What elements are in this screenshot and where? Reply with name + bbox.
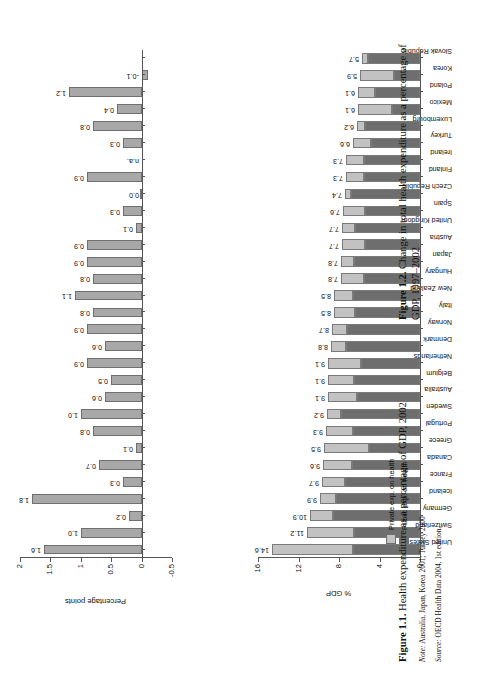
bar-value-label: 0.8 — [80, 275, 90, 283]
x-axis-tick — [142, 362, 145, 363]
category-label: Korea — [433, 64, 452, 72]
figure-1-2-plot-area: 1.61.00.21.80.30.70.10.81.00.60.50.90.60… — [20, 50, 172, 558]
figure-1-2-bar — [69, 87, 142, 97]
bar-value-label: 6.2 — [344, 123, 354, 131]
x-axis-tick — [142, 311, 145, 312]
x-axis-tick — [142, 159, 145, 160]
x-axis-tick — [142, 464, 145, 465]
bar-segment-private — [332, 324, 347, 334]
bar-value-label: n.a. — [126, 157, 138, 165]
bar-segment-private — [360, 70, 393, 80]
bar-segment-private — [346, 172, 364, 182]
bar-value-label: 8.8 — [318, 343, 328, 351]
y-axis-tick-label: 1 — [76, 564, 85, 592]
bar-value-label: 0.8 — [80, 309, 90, 317]
category-label: Finland — [429, 165, 452, 173]
figure-1-2-caption-label: Figure 1.2. — [397, 272, 408, 320]
figure-1-2-bar — [93, 426, 142, 436]
bar-segment-private — [323, 460, 352, 470]
x-axis-tick — [142, 379, 145, 380]
x-axis-tick — [142, 498, 145, 499]
figure-1-2-bar — [87, 257, 142, 267]
bar-segment-private — [328, 375, 354, 385]
bar-segment-private — [328, 392, 357, 402]
bar-value-label: 0.1 — [122, 445, 132, 453]
bar-value-label: 9.1 — [315, 377, 325, 385]
y-axis-tick — [142, 558, 143, 562]
bar-segment-public — [369, 443, 420, 453]
bar-segment-private — [345, 189, 351, 199]
x-axis-tick — [142, 261, 145, 262]
y-axis-tick-label: 4 — [375, 564, 384, 586]
x-axis-tick — [142, 142, 145, 143]
bar-value-label: 7.7 — [329, 225, 339, 233]
y-axis-tick-label: 0 — [137, 564, 146, 592]
figure-1-2-bar — [81, 409, 142, 419]
bar-segment-private — [353, 138, 371, 148]
bar-value-label: 0.5 — [98, 377, 108, 385]
x-axis-tick — [142, 91, 145, 92]
bar-value-label: 0.9 — [74, 326, 84, 334]
bar-segment-private — [328, 358, 361, 368]
figure-1-2-bar — [129, 511, 141, 521]
x-axis-tick — [142, 244, 145, 245]
category-label: Ireland — [430, 148, 452, 156]
bar-value-label: 7.7 — [329, 242, 339, 250]
bar-value-label: 9.2 — [314, 411, 324, 419]
bar-segment-private — [346, 155, 364, 165]
bar-value-label: 10.9 — [292, 513, 306, 521]
bar-value-label: 0.7 — [86, 462, 96, 470]
figure-1-2-caption: Figure 1.2. Change in total health expen… — [396, 30, 422, 320]
x-axis-tick — [142, 532, 145, 533]
x-axis-tick — [142, 108, 145, 109]
figure-1-1-bar — [258, 324, 420, 334]
y-axis-tick-label: 2 — [15, 564, 24, 592]
bar-value-label: 11.2 — [290, 529, 304, 537]
bar-value-label: 8.7 — [319, 326, 329, 334]
x-axis-tick — [142, 345, 145, 346]
y-axis-tick-label: 1.5 — [45, 564, 54, 592]
y-axis-tick — [172, 558, 173, 562]
bar-segment-private — [334, 290, 353, 300]
category-label: Japan — [433, 250, 452, 258]
x-axis-tick — [142, 57, 145, 58]
x-axis-tick — [420, 328, 423, 329]
legend-item-private: Private exp. on health — [386, 459, 396, 545]
bar-value-label: 7.4 — [332, 191, 342, 199]
figure-1-2-bar — [87, 172, 142, 182]
y-axis-tick — [380, 558, 381, 562]
bar-value-label: 9.6 — [310, 462, 320, 470]
bar-value-label: 0.0 — [128, 191, 138, 199]
bar-value-label: 0.8 — [80, 123, 90, 131]
bar-value-label: 14.6 — [255, 546, 269, 554]
y-axis-tick — [20, 558, 21, 562]
bar-value-label: 0.9 — [74, 174, 84, 182]
figure-1-1-note-label: Note: — [418, 646, 427, 662]
y-axis-tick — [111, 558, 112, 562]
bar-value-label: 0.2 — [116, 513, 126, 521]
figure-1-1-source: Source: OECD Health Data 2004, 1st editi… — [434, 362, 444, 662]
figure-1-2-bar — [93, 274, 142, 284]
x-axis-tick — [142, 549, 145, 550]
y-axis-tick — [50, 558, 51, 562]
bar-value-label: 1.2 — [55, 89, 65, 97]
x-axis-tick — [142, 328, 145, 329]
figure-1-2-bar — [111, 375, 141, 385]
bar-value-label: 0.6 — [92, 343, 102, 351]
bar-value-label: 5.9 — [347, 72, 357, 80]
bar-segment-private — [331, 341, 346, 351]
figure-1-1-source-text: OECD Health Data 2004, 1st edition. — [434, 527, 443, 638]
x-axis-tick — [142, 515, 145, 516]
bar-value-label: 9.9 — [307, 496, 317, 504]
x-axis-tick — [142, 413, 145, 414]
figure-1-2-bar — [93, 308, 142, 318]
bar-value-label: 6.1 — [345, 89, 355, 97]
bar-value-label: 8.5 — [321, 292, 331, 300]
category-label: Hungary — [425, 267, 452, 275]
y-axis-tick — [299, 558, 300, 562]
x-axis-tick — [142, 295, 145, 296]
bar-value-label: 9.3 — [313, 428, 323, 436]
x-axis-tick — [420, 345, 423, 346]
category-label: Denmark — [423, 335, 452, 343]
figure-1-1-note-text: Australia, Japan, Korea 2001; Turkey 200… — [418, 516, 427, 643]
